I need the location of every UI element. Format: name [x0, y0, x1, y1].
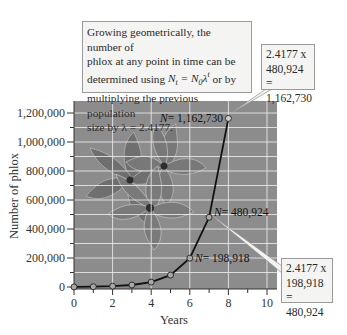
- svg-text:400,000: 400,000: [26, 222, 65, 236]
- svg-text:1,000,000: 1,000,000: [17, 135, 65, 149]
- callout-year-7-calc: 2.4177 x 198,918 = 480,924: [281, 258, 333, 303]
- callout-formula-line: phlox at any point in time can be: [87, 54, 247, 69]
- svg-text:10: 10: [261, 296, 273, 310]
- callout-line: 2.4177 x: [266, 47, 310, 62]
- callout-year-8-calc: 2.4177 x 480,924 = 1,162,730: [261, 44, 315, 90]
- callout-line: 2.4177 x: [286, 261, 328, 276]
- y-axis-label: Number of phlox: [7, 152, 21, 239]
- y-ticks: [67, 113, 74, 287]
- svg-text:8: 8: [225, 296, 231, 310]
- callout-line: 198,918 =: [286, 276, 328, 305]
- callout-line: 480,924: [286, 305, 328, 320]
- callout-formula-line: multiplying the previous population: [87, 91, 247, 120]
- callout-line: 1,162,730: [266, 91, 310, 106]
- svg-text:2: 2: [110, 296, 116, 310]
- x-ticks: [74, 289, 267, 295]
- svg-text:0: 0: [59, 280, 65, 294]
- y-tick-labels: 0 200,000 400,000 600,000 800,000 1,000,…: [17, 106, 65, 294]
- x-axis-label: Years: [160, 313, 188, 327]
- annotation-year-7: N= 480,924: [213, 206, 269, 219]
- svg-text:800,000: 800,000: [26, 164, 65, 178]
- callout-formula-line: Growing geometrically, the number of: [87, 25, 247, 54]
- callout-formula-line: size by λ = 2.4177.: [87, 120, 247, 135]
- svg-text:600,000: 600,000: [26, 193, 65, 207]
- svg-text:1,200,000: 1,200,000: [17, 106, 65, 120]
- x-tick-labels: 0 2 4 6 8 10: [71, 296, 273, 310]
- annotation-year-6: N= 198,918: [194, 252, 250, 265]
- svg-text:200,000: 200,000: [26, 251, 65, 265]
- callout-formula-line: determined using Nt = N0λt or by: [87, 69, 247, 92]
- callout-line: 480,924 =: [266, 62, 310, 91]
- svg-text:0: 0: [71, 296, 77, 310]
- callout-formula: Growing geometrically, the number of phl…: [82, 21, 252, 93]
- svg-text:4: 4: [148, 296, 154, 310]
- svg-text:6: 6: [187, 296, 193, 310]
